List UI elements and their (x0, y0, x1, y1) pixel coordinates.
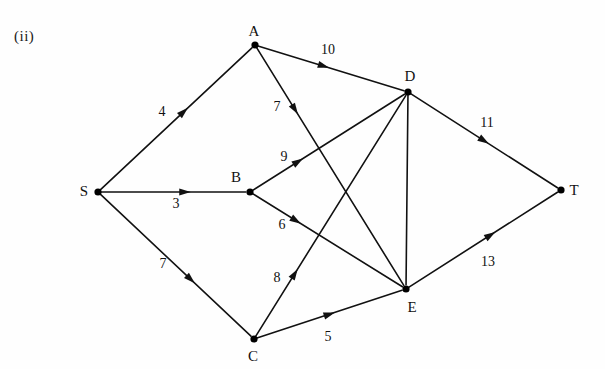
figure-caption: (ii) (14, 28, 34, 45)
node-c (250, 335, 257, 342)
edge-weight-b-e: 6 (279, 217, 286, 233)
edge-d-e (406, 95, 408, 285)
edge-s-c (100, 194, 251, 336)
node-label-d: D (405, 68, 416, 85)
edges-group (100, 46, 557, 338)
edge-weight-s-a: 4 (159, 104, 166, 120)
arrowhead-b-e-icon (289, 215, 301, 224)
arrowhead-c-e-icon (323, 312, 335, 319)
edge-weight-a-e: 7 (274, 99, 281, 115)
network-diagram-canvas: (ii) SABCDET 43710796851113 (0, 0, 605, 369)
node-label-c: C (248, 348, 258, 365)
edge-weight-s-b: 3 (173, 196, 180, 212)
arrowhead-d-t-icon (477, 135, 489, 144)
graph-edges-layer (0, 0, 605, 369)
edge-e-t (409, 192, 558, 287)
edge-weight-c-d: 8 (274, 270, 281, 286)
node-label-t: T (569, 182, 578, 199)
arrowhead-s-b-icon (179, 188, 191, 195)
node-s (94, 188, 101, 195)
edge-weight-c-e: 5 (325, 329, 332, 345)
node-d (404, 88, 411, 95)
edge-weight-a-d: 10 (321, 42, 335, 58)
arrowhead-e-t-icon (484, 232, 496, 241)
node-e (402, 285, 409, 292)
node-b (246, 188, 253, 195)
edge-weight-s-c: 7 (160, 256, 167, 272)
arrowhead-c-d-icon (289, 269, 298, 281)
node-label-e: E (407, 299, 416, 316)
edge-weight-d-t: 11 (480, 115, 493, 131)
edge-weight-b-d: 9 (281, 149, 288, 165)
edge-weight-e-t: 13 (481, 254, 495, 270)
edge-c-d (256, 96, 406, 337)
arrowhead-a-d-icon (317, 61, 329, 68)
node-a (251, 41, 258, 48)
node-label-b: B (231, 169, 241, 186)
arrowhead-a-e-icon (289, 103, 298, 115)
node-label-s: S (80, 183, 88, 200)
node-t (557, 186, 564, 193)
edge-s-a (100, 48, 252, 190)
arrowhead-b-d-icon (291, 158, 303, 167)
node-label-a: A (249, 23, 260, 40)
